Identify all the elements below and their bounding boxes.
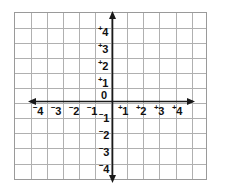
y-tick-label-neg4: −4 (99, 162, 109, 175)
coordinate-plane-figure: 0 −4 −3 −2 −1 +1 +2 +3 +4 +4 +3 +2 +1 −1… (0, 0, 225, 196)
x-tick-label-pos2: +2 (136, 104, 146, 117)
x-tick-label-pos4: +4 (172, 104, 182, 117)
x-tick-value-pos4: 4 (176, 105, 182, 117)
x-tick-value-neg2: 2 (73, 105, 79, 117)
y-tick-value-neg2: 2 (103, 129, 109, 141)
x-tick-label-pos3: +3 (154, 104, 164, 117)
x-tick-label-pos1: +1 (118, 104, 128, 117)
y-tick-label-pos1: +1 (98, 76, 108, 89)
y-tick-value-pos2: 2 (102, 60, 108, 72)
y-tick-value-pos3: 3 (102, 43, 108, 55)
y-tick-value-neg3: 3 (103, 146, 109, 158)
x-tick-label-neg2: −2 (69, 104, 79, 117)
y-tick-label-pos4: +4 (98, 25, 108, 38)
y-tick-value-pos1: 1 (102, 77, 108, 89)
y-tick-label-pos3: +3 (98, 42, 108, 55)
x-tick-value-pos2: 2 (140, 105, 146, 117)
y-tick-value-neg1: 1 (103, 112, 109, 124)
y-tick-label-neg3: −3 (99, 145, 109, 158)
y-tick-value-pos4: 4 (102, 26, 108, 38)
x-tick-value-pos1: 1 (122, 105, 128, 117)
grid-area (14, 12, 207, 180)
x-tick-value-neg1: 1 (91, 105, 97, 117)
y-tick-label-pos2: +2 (98, 59, 108, 72)
origin-label: 0 (101, 90, 107, 101)
x-tick-label-neg4: −4 (33, 104, 43, 117)
x-tick-label-neg1: −1 (87, 104, 97, 117)
y-tick-label-neg1: −1 (99, 111, 109, 124)
x-tick-value-neg3: 3 (55, 105, 61, 117)
y-tick-value-neg4: 4 (103, 163, 109, 175)
x-tick-value-pos3: 3 (158, 105, 164, 117)
x-tick-value-neg4: 4 (37, 105, 43, 117)
grid-lines (15, 13, 206, 179)
x-tick-label-neg3: −3 (51, 104, 61, 117)
y-tick-label-neg2: −2 (99, 128, 109, 141)
